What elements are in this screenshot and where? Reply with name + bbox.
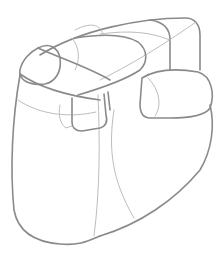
index-finger — [72, 35, 146, 95]
palm-block — [12, 75, 212, 244]
curled-fingers — [59, 70, 212, 131]
back-of-hand-box — [40, 18, 200, 80]
thumb — [20, 46, 110, 100]
fist-sketch — [0, 0, 224, 263]
